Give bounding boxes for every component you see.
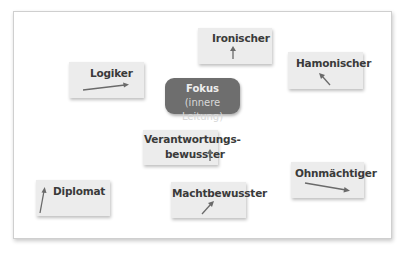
arrow-up-icon — [198, 28, 272, 64]
focus-title: Fokus — [165, 82, 240, 96]
node-hamonischer: Hamonischer — [288, 52, 363, 89]
node-logiker: Logiker — [69, 62, 144, 98]
node-verantwortungsbewusster: Verantwortungs- bewusster — [143, 130, 218, 165]
focus-subtitle: (innere Leitung) — [165, 96, 240, 124]
node-diplomat: Diplomat — [36, 180, 110, 216]
node-machtbewusster: Machtbewusster — [171, 182, 246, 218]
arrow-up-right-icon — [171, 182, 246, 218]
arrow-right-icon — [69, 62, 144, 98]
arrow-up-left-icon — [288, 52, 363, 89]
arrow-right-down-icon — [291, 162, 364, 198]
arrow-up-icon — [143, 130, 218, 165]
focus-center-node: Fokus (innere Leitung) — [165, 78, 240, 114]
node-ohnmaechtiger: Ohnmächtiger — [291, 162, 364, 198]
node-ironischer: Ironischer — [198, 28, 272, 64]
arrow-up-icon — [36, 180, 110, 216]
